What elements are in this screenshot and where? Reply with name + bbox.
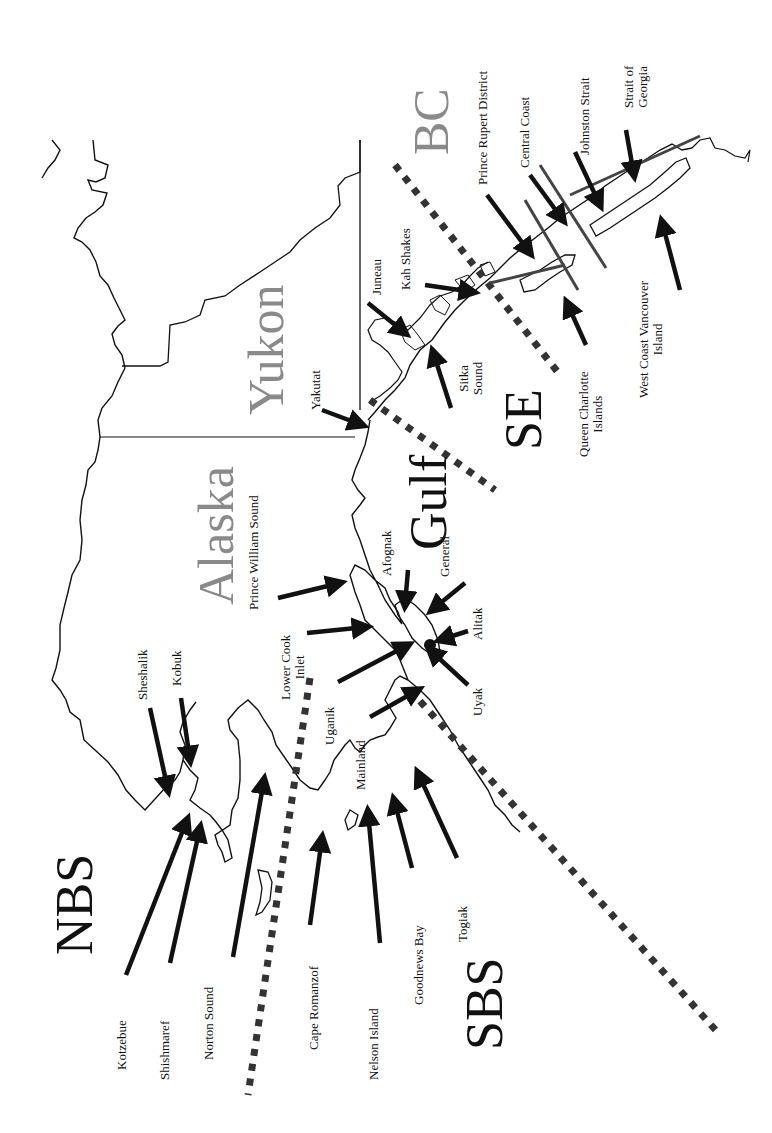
arrow-general [432, 583, 465, 610]
label-general: General [438, 536, 452, 577]
label-west-coast-vancouver-island: West Coast Vancouver Island [637, 281, 664, 398]
label-alitak: Alitak [471, 608, 485, 641]
label-goodnews-bay: Goodnews Bay [412, 925, 426, 1005]
st-lawrence-island [256, 870, 272, 915]
alaska-arctic-coastline [52, 368, 196, 810]
arrow-juneau [368, 303, 405, 333]
label-sbs: SBS [458, 957, 513, 1050]
arrow-cape-romanzof [310, 838, 322, 925]
vancouver-island [590, 158, 690, 236]
label-afognak: Afognak [380, 531, 394, 577]
arrow-queen-charlotte [567, 303, 586, 345]
bc-line-3 [540, 165, 606, 268]
nunivak-island [345, 810, 358, 830]
label-queen-charlotte-islands: Queen Charlotte Islands [577, 371, 604, 457]
label-lower-cook-line1: Lower Cook [279, 635, 293, 700]
label-sog-line1: Strait of [622, 66, 636, 108]
arrow-alitak [440, 631, 468, 640]
label-wcvi-line1: West Coast Vancouver [637, 281, 651, 398]
label-nbs: NBS [48, 854, 103, 955]
arrow-kotzebue [126, 820, 187, 975]
label-sitka-line2: Sound [471, 362, 485, 395]
label-central-coast: Central Coast [518, 97, 532, 168]
label-prince-rupert: Prince Rupert District [476, 71, 490, 185]
arrow-lower-cook-1 [307, 627, 366, 633]
arrow-west-coast-vi [662, 222, 680, 290]
arrow-uyak [430, 650, 468, 685]
label-norton-sound: Norton Sound [202, 987, 216, 1060]
label-yakutat: Yakutat [309, 370, 323, 410]
label-uganik: Uganik [323, 707, 337, 745]
arrow-kah-shakes [425, 285, 473, 292]
label-alaska: Alaska [190, 466, 243, 605]
arrow-togiak [418, 773, 457, 858]
arrow-mainland [370, 690, 418, 717]
arrow-norton-sound [233, 780, 264, 957]
label-strait-of-georgia: Strait of Georgia [622, 66, 649, 108]
label-johnston-strait: Johnston Strait [578, 77, 592, 155]
arrow-nelson-island [368, 812, 380, 943]
label-wcvi-line2: Island [651, 324, 665, 356]
arctic-coastline [42, 140, 60, 178]
label-togiak: Togiak [456, 906, 470, 942]
seward-peninsula-coastline [183, 700, 334, 862]
label-bc: BC [405, 88, 458, 155]
arrow-prince-william [278, 583, 340, 598]
label-lower-cook-line2: Inlet [293, 655, 307, 679]
boundary-se-bc [395, 165, 560, 375]
arrow-kobuk [181, 698, 190, 760]
label-juneau: Juneau [370, 259, 384, 295]
label-kotzebue: Kotzebue [115, 1020, 129, 1070]
bc-mainland-coast [692, 138, 750, 162]
yukon-north-coastline [74, 140, 125, 368]
label-se: SE [497, 389, 552, 450]
label-sheshalik: Sheshalik [136, 649, 150, 700]
label-qci-line2: Islands [591, 396, 605, 433]
boundary-nbs-sbs [248, 678, 310, 1095]
arrow-central-coast [530, 175, 563, 220]
label-lower-cook-inlet: Lower Cook Inlet [279, 635, 306, 700]
label-sitka-line1: Sitka [457, 365, 471, 392]
arrow-sitka [433, 352, 451, 408]
label-yukon: Yukon [240, 284, 293, 415]
label-kobuk: Kobuk [170, 651, 184, 686]
label-cape-romanzof: Cape Romanzof [307, 966, 321, 1050]
arrow-lower-cook-2 [338, 645, 408, 682]
label-mainland: Mainland [354, 740, 368, 790]
arrow-johnston-strait [575, 152, 600, 205]
label-kah-shakes: Kah Shakes [399, 228, 413, 290]
arrow-goodnews-bay [394, 800, 412, 868]
arrow-afognak [405, 570, 408, 605]
arrow-yakutat [322, 410, 362, 425]
label-sitka-sound: Sitka Sound [457, 362, 484, 395]
label-shishmaref: Shishmaref [158, 1021, 172, 1080]
label-prince-william-sound: Prince William Sound [247, 495, 261, 610]
label-sog-line2: Georgia [636, 66, 650, 108]
label-uyak: Uyak [471, 688, 485, 716]
label-nelson-island: Nelson Island [367, 1008, 381, 1080]
kodiak-dark-region [424, 639, 436, 651]
arrow-sheshalik [150, 708, 168, 790]
arrow-prince-rupert [487, 195, 530, 253]
label-qci-line1: Queen Charlotte [577, 371, 591, 457]
